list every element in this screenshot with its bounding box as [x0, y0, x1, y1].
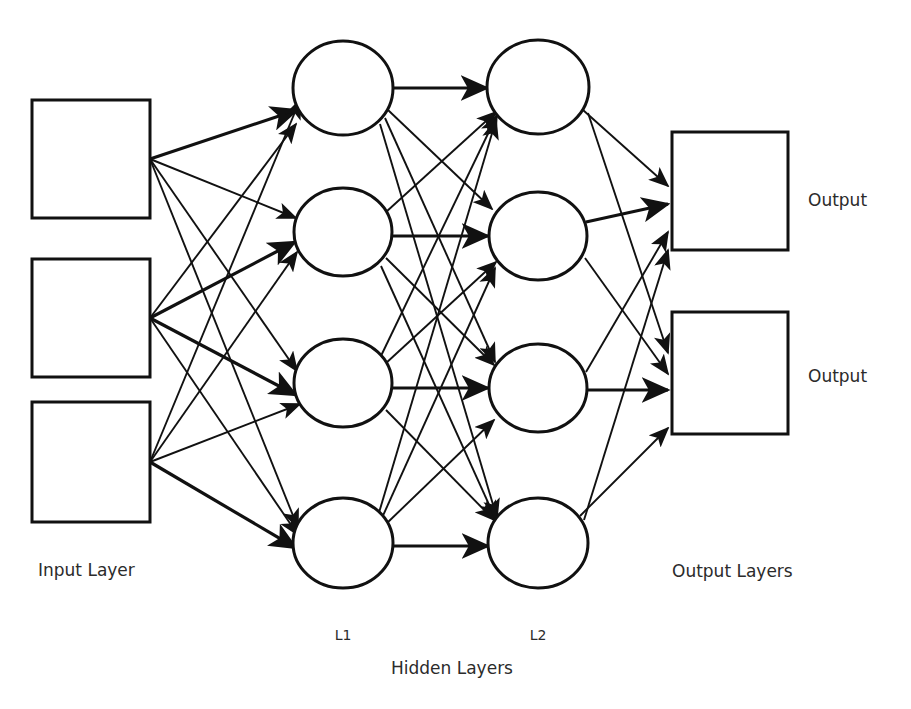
edge-h2-3-o1 [586, 232, 668, 372]
hidden-l1-node-2[interactable] [294, 188, 392, 276]
output-layers-label: Output Layers [672, 561, 793, 581]
edge-i1-h1-2 [150, 159, 296, 218]
hidden-l1-node-3[interactable] [294, 339, 392, 427]
hidden-l2-node-2[interactable] [489, 192, 587, 280]
edge-h2-2-o1 [586, 204, 668, 222]
edge-i3-h1-4 [150, 462, 296, 548]
hidden-layer-2-group [487, 40, 589, 588]
input-node-1[interactable] [32, 100, 150, 218]
edge-i3-h1-3 [150, 404, 300, 462]
hidden-l1-node-4[interactable] [293, 498, 393, 588]
input-layer-label: Input Layer [38, 560, 135, 580]
neural-network-diagram: Input Layer L1 L2 Hidden Layers Output O… [0, 0, 911, 709]
edge-i2-h1-2 [150, 242, 295, 318]
output-label-top: Output [808, 190, 867, 210]
hidden-l2-node-1[interactable] [487, 40, 589, 134]
edges-l1-to-l2 [378, 88, 497, 546]
input-node-3[interactable] [32, 402, 150, 522]
hidden-l2-label: L2 [530, 627, 547, 643]
output-node-1[interactable] [672, 132, 788, 250]
input-layer-group [32, 100, 150, 522]
network-canvas: Input Layer L1 L2 Hidden Layers Output O… [0, 0, 911, 709]
input-node-2[interactable] [32, 259, 150, 377]
hidden-layer-1-group [293, 41, 393, 588]
edge-i1-h1-3 [150, 159, 297, 371]
hidden-l2-node-3[interactable] [489, 344, 587, 432]
edges-input-to-l1 [150, 100, 300, 548]
edge-i2-h1-4 [150, 318, 298, 535]
edge-h2-4-o1 [584, 250, 668, 520]
hidden-layers-label: Hidden Layers [391, 658, 513, 678]
hidden-l1-node-1[interactable] [293, 41, 393, 135]
hidden-l2-node-4[interactable] [488, 498, 588, 588]
edge-h2-4-o2 [580, 428, 668, 516]
edge-i1-h1-4 [150, 159, 298, 528]
edge-h1-3-h2-4 [386, 410, 494, 520]
hidden-l1-label: L1 [335, 627, 352, 643]
edge-h2-1-o1 [583, 110, 668, 186]
edges-l2-to-output [580, 110, 668, 520]
output-label-bottom: Output [808, 366, 867, 386]
output-layer-group [672, 132, 788, 434]
output-node-2[interactable] [672, 312, 788, 434]
